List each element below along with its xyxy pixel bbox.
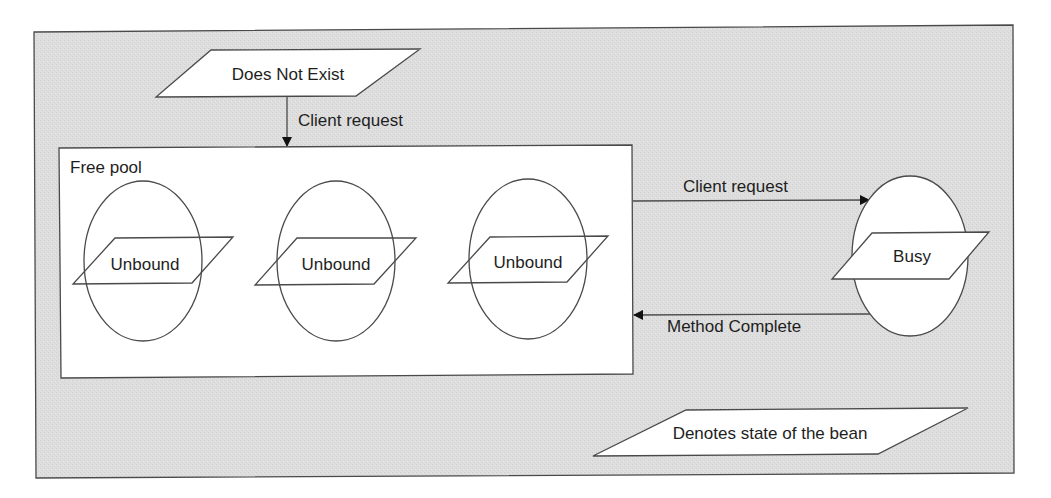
state-label-busy: Busy [893, 247, 931, 266]
transition-label-client-request: Client request [683, 177, 788, 196]
bean-lifecycle-diagram: Does Not Exist Client request Free pool … [0, 0, 1051, 498]
transition-label-create-request: Client request [298, 111, 403, 130]
free-pool: Free pool Unbound Unbound Unbound [59, 145, 633, 378]
state-label-unbound: Unbound [493, 253, 562, 272]
state-label-unbound: Unbound [301, 255, 370, 274]
free-pool-label: Free pool [70, 158, 142, 177]
transition-label-method-complete: Method Complete [667, 317, 801, 336]
state-label-does-not-exist: Does Not Exist [232, 65, 345, 84]
legend-text: Denotes state of the bean [673, 424, 868, 443]
state-label-unbound: Unbound [110, 255, 179, 274]
